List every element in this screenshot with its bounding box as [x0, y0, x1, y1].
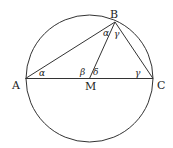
point-label-a: A	[11, 79, 21, 92]
point-label-m: M	[85, 80, 96, 93]
angle-label-a: α	[39, 68, 45, 78]
segment-bc	[115, 22, 153, 79]
point-label-c: C	[157, 79, 165, 92]
angle-label-b-left: α	[103, 28, 109, 38]
point-label-b: B	[110, 8, 118, 21]
angle-label-m-left: β	[79, 67, 85, 77]
angle-label-m-right: δ	[93, 67, 98, 77]
angle-label-c: γ	[135, 68, 141, 78]
angle-label-b-right: γ	[114, 29, 120, 39]
geometry-diagram: A B C M α α γ β δ γ	[0, 0, 173, 148]
